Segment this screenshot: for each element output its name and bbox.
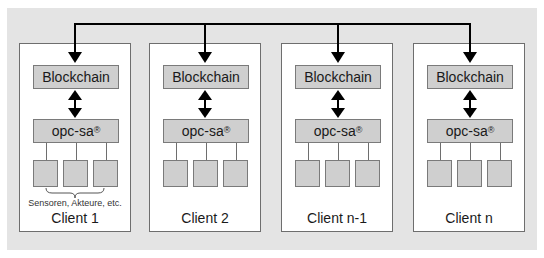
- double-arrow-icon: [198, 90, 212, 118]
- double-arrow-icon: [331, 90, 345, 118]
- double-arrow-icon: [463, 90, 477, 118]
- bus-line: [75, 24, 470, 52]
- arrow-down-icon: [331, 52, 345, 63]
- double-arrow-icon: [68, 90, 82, 118]
- arrow-down-icon: [198, 52, 212, 63]
- arrow-down-icon: [68, 52, 82, 63]
- brace-icon: [46, 188, 104, 198]
- arrow-down-icon: [463, 52, 477, 63]
- connector-arrows: [0, 0, 544, 258]
